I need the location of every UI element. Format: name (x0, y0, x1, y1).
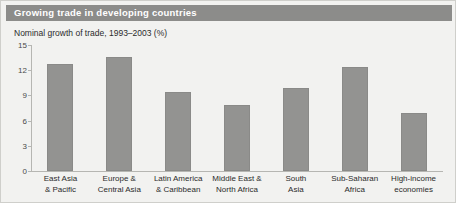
y-axis-tick-mark (28, 45, 31, 46)
y-axis-tick-label: 3 (13, 141, 27, 150)
plot-area: 03691215 (31, 45, 443, 172)
bar (224, 105, 250, 171)
y-axis-tick-mark (28, 171, 31, 172)
x-axis-line (31, 171, 443, 172)
bar (401, 113, 427, 171)
y-axis-tick-label: 12 (13, 66, 27, 75)
page-title: Growing trade in developing countries (14, 7, 197, 18)
y-axis-tick-label: 9 (13, 91, 27, 100)
y-axis-tick-mark (28, 70, 31, 71)
y-axis-line (31, 45, 32, 172)
x-axis-label: High-incomeeconomies (378, 174, 450, 195)
y-axis-tick-mark (28, 146, 31, 147)
bar (47, 64, 73, 171)
y-axis-tick-label: 6 (13, 116, 27, 125)
x-axis-label-line: economies (378, 185, 450, 196)
y-axis-tick-mark (28, 121, 31, 122)
y-axis-tick-label: 15 (13, 41, 27, 50)
bar (106, 57, 132, 171)
y-axis-tick-mark (28, 95, 31, 96)
bar (342, 67, 368, 171)
bar (165, 92, 191, 171)
x-axis-labels: East Asia& PacificEurope &Central AsiaLa… (31, 174, 443, 202)
bar (283, 88, 309, 171)
x-axis-label-line: High-income (378, 174, 450, 185)
chart-subtitle: Nominal growth of trade, 1993–2003 (%) (14, 28, 167, 38)
chart-title-bar: Growing trade in developing countries (6, 5, 452, 21)
chart-figure: Growing trade in developing countries No… (0, 0, 456, 203)
